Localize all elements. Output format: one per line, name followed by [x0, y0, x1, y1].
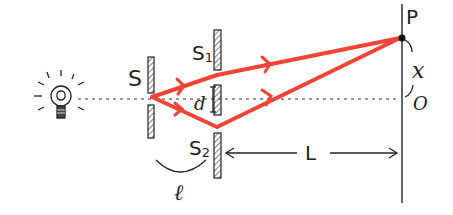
label-slit2: S2 [189, 136, 210, 160]
label-d: d [194, 93, 206, 114]
label-origin: O [413, 93, 428, 114]
light-bulb-icon [34, 70, 84, 118]
label-l-screen: L [305, 141, 317, 165]
double-slit-diagram: S S1 S2 d P x O L ℓ [0, 0, 453, 215]
ray-via-s1 [152, 38, 400, 97]
double-slit-barrier [214, 30, 221, 178]
light-rays [152, 38, 400, 127]
slit-distance-brace [156, 160, 206, 172]
label-l-slit: ℓ [174, 180, 184, 205]
label-slit1: S1 [192, 41, 213, 65]
label-source-slit: S [128, 66, 142, 91]
point-p-dot [399, 35, 406, 42]
label-p: P [406, 5, 418, 29]
label-x: x [412, 58, 425, 83]
